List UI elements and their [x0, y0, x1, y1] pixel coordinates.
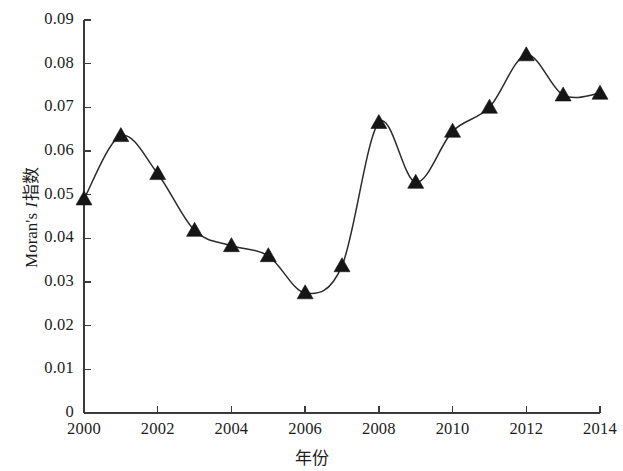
y-axis-title-italic-i: I: [22, 201, 41, 209]
data-point-2006: [297, 285, 313, 299]
y-tick-label-8: 0.08: [0, 53, 74, 73]
x-axis-title: 年份: [0, 444, 623, 469]
data-point-2012: [518, 47, 534, 61]
tick-marks-group: [84, 20, 600, 413]
data-point-2014: [592, 85, 608, 99]
y-tick-label-9: 0.09: [0, 9, 74, 29]
data-point-2000: [76, 191, 92, 205]
y-tick-label-1: 0.01: [0, 358, 74, 378]
moran-index-line-chart: 00.010.020.030.040.050.060.070.080.09 20…: [0, 0, 623, 471]
data-point-2001: [113, 128, 129, 142]
y-tick-label-2: 0.02: [0, 315, 74, 335]
data-point-2007: [334, 258, 350, 272]
data-point-markers: [76, 47, 608, 299]
data-point-2011: [481, 99, 497, 113]
data-point-2010: [445, 123, 461, 137]
axes-group: [84, 20, 600, 413]
y-axis-title-suffix: 指数: [22, 167, 41, 201]
y-tick-label-7: 0.07: [0, 96, 74, 116]
plot-area: [0, 0, 623, 471]
x-tick-label-7: 2014: [555, 419, 623, 439]
y-axis-title-prefix: Moran's: [22, 209, 41, 268]
data-point-2002: [150, 166, 166, 180]
y-axis-title: Moran's I指数: [17, 123, 42, 313]
data-point-2005: [260, 248, 276, 262]
